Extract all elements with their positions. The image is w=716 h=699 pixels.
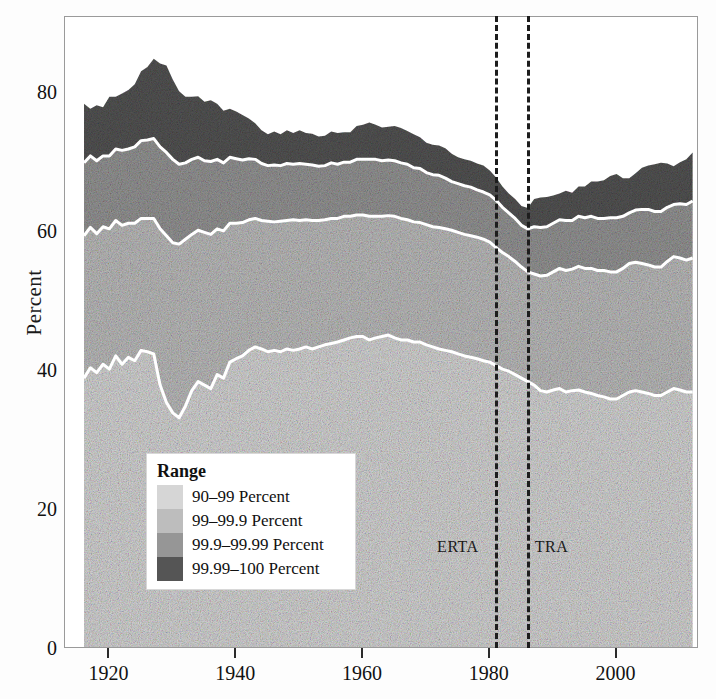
legend-item-label: 99–99.9 Percent xyxy=(192,511,302,531)
legend-swatch xyxy=(157,485,183,509)
event-label-tra: TRA xyxy=(535,538,569,556)
event-line-erta xyxy=(495,16,498,648)
x-tick-mark xyxy=(361,648,363,658)
x-tick: 2000 xyxy=(596,648,636,685)
legend-items: 90–99 Percent99–99.9 Percent99.9–99.99 P… xyxy=(157,485,347,581)
legend-swatch xyxy=(157,509,183,533)
x-tick: 1940 xyxy=(215,648,255,685)
y-tick-label: 60 xyxy=(37,220,57,243)
y-tick-label: 20 xyxy=(37,498,57,521)
y-tick-label: 0 xyxy=(47,637,57,660)
x-tick-mark xyxy=(488,648,490,658)
x-tick-label: 1980 xyxy=(469,662,509,685)
x-tick-label: 2000 xyxy=(596,662,636,685)
x-tick-label: 1940 xyxy=(215,662,255,685)
x-tick-mark xyxy=(107,648,109,658)
event-label-erta: ERTA xyxy=(437,538,479,556)
x-tick-mark xyxy=(234,648,236,658)
legend-item: 99–99.9 Percent xyxy=(157,509,347,533)
legend-swatch xyxy=(157,557,183,581)
x-tick-label: 1960 xyxy=(342,662,382,685)
legend: Range 90–99 Percent99–99.9 Percent99.9–9… xyxy=(146,453,356,590)
y-tick-label: 40 xyxy=(37,359,57,382)
x-tick: 1920 xyxy=(88,648,128,685)
event-line-tra xyxy=(527,16,530,648)
x-tick: 1960 xyxy=(342,648,382,685)
legend-swatch xyxy=(157,533,183,557)
chart-figure: Percent 020406080 19201940196019802000 E… xyxy=(0,0,716,699)
legend-item-label: 99.9–99.99 Percent xyxy=(192,535,324,555)
legend-title: Range xyxy=(157,461,347,482)
x-tick: 1980 xyxy=(469,648,509,685)
legend-item-label: 90–99 Percent xyxy=(192,487,290,507)
x-tick-label: 1920 xyxy=(88,662,128,685)
x-tick-mark xyxy=(615,648,617,658)
legend-item: 90–99 Percent xyxy=(157,485,347,509)
legend-item: 99.99–100 Percent xyxy=(157,557,347,581)
legend-item: 99.9–99.99 Percent xyxy=(157,533,347,557)
y-tick-label: 80 xyxy=(37,81,57,104)
y-axis-label: Percent xyxy=(22,233,47,373)
legend-item-label: 99.99–100 Percent xyxy=(192,559,319,579)
